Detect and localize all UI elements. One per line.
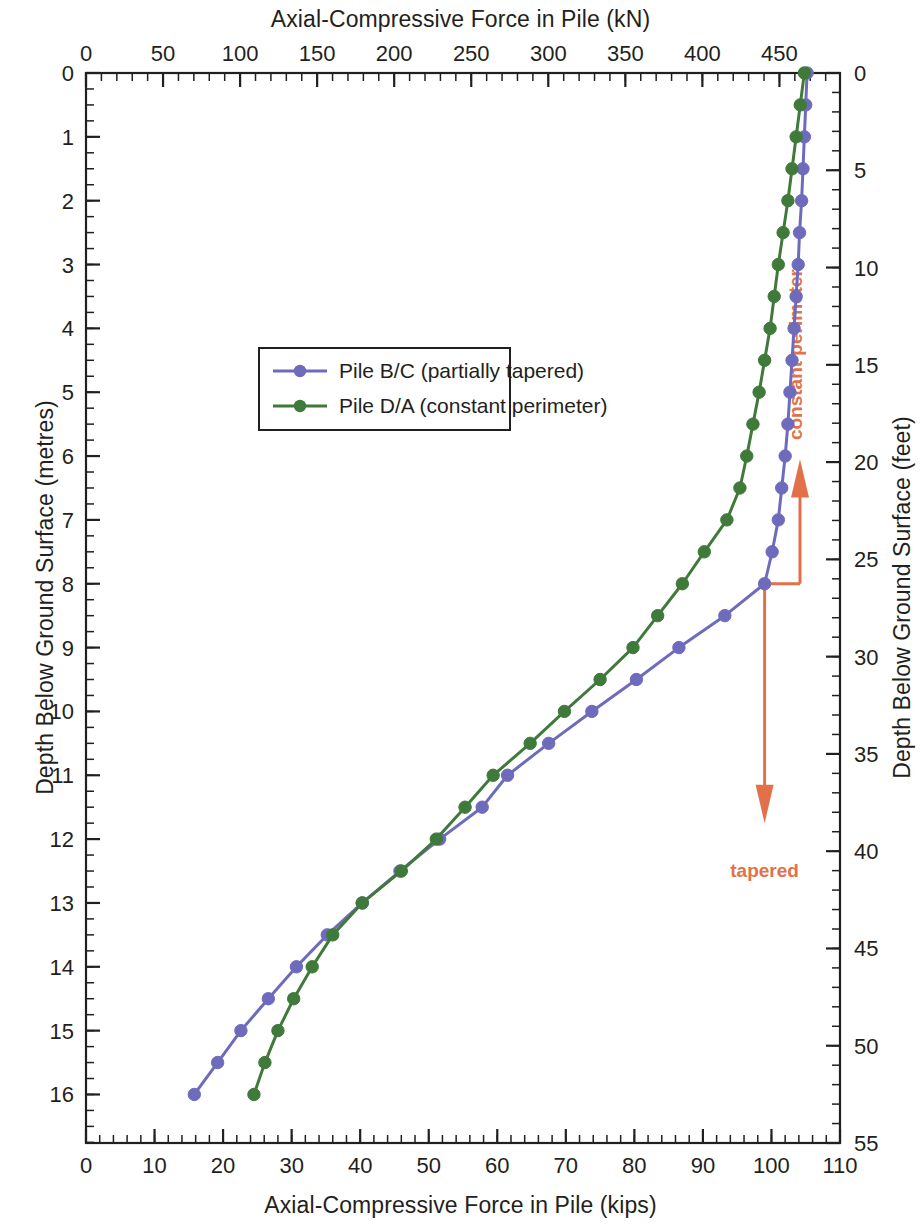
tick-label: 14 — [50, 955, 74, 980]
data-point — [766, 546, 778, 558]
tick-label: 0 — [854, 61, 866, 86]
series-line — [194, 73, 807, 1094]
data-point — [676, 578, 688, 590]
tick-label: 70 — [554, 1153, 578, 1178]
data-point — [795, 194, 807, 206]
data-point — [272, 1024, 284, 1036]
data-point — [734, 482, 746, 494]
annotation-label-tapered: tapered — [730, 860, 799, 881]
data-point — [794, 99, 806, 111]
data-point — [476, 801, 488, 813]
tick-label: 12 — [50, 827, 74, 852]
tick-label: 9 — [62, 636, 74, 661]
data-point — [753, 386, 765, 398]
data-point — [651, 609, 663, 621]
series-line — [254, 73, 804, 1094]
tick-label: 110 — [822, 1153, 857, 1178]
right-axis-ticks — [826, 73, 840, 1143]
legend-label: Pile B/C (partially tapered) — [339, 359, 584, 382]
data-point — [188, 1088, 200, 1100]
tick-label: 300 — [530, 41, 567, 66]
chart-figure: Axial-Compressive Force in Pile (kN) Axi… — [0, 0, 921, 1229]
tick-label: 60 — [485, 1153, 509, 1178]
tick-label: 0 — [80, 1153, 92, 1178]
data-point — [327, 929, 339, 941]
tick-label: 3 — [62, 253, 74, 278]
data-point — [290, 961, 302, 973]
tick-label: 55 — [854, 1131, 878, 1156]
data-point — [772, 514, 784, 526]
data-point — [698, 546, 710, 558]
tick-label: 20 — [854, 450, 878, 475]
data-point — [764, 322, 776, 334]
data-point — [306, 961, 318, 973]
data-point — [782, 194, 794, 206]
data-point — [586, 705, 598, 717]
data-point — [287, 993, 299, 1005]
tick-label: 90 — [691, 1153, 715, 1178]
plot-frame — [86, 73, 840, 1143]
data-point — [793, 226, 805, 238]
top-axis-tick-labels: 050100150200250300350400450 — [80, 41, 798, 66]
tick-label: 250 — [453, 41, 490, 66]
tick-label: 16 — [50, 1082, 74, 1107]
bottom-axis-ticks — [86, 1129, 840, 1143]
data-point — [487, 769, 499, 781]
tick-label: 45 — [854, 936, 878, 961]
data-point — [782, 418, 794, 430]
tick-label: 40 — [854, 839, 878, 864]
tick-label: 13 — [50, 891, 74, 916]
data-point — [777, 226, 789, 238]
tick-label: 50 — [854, 1034, 878, 1059]
data-point — [776, 482, 788, 494]
tick-label: 5 — [62, 380, 74, 405]
data-point — [262, 993, 274, 1005]
series-pile-da — [248, 67, 811, 1101]
data-point — [459, 801, 471, 813]
data-point — [235, 1024, 247, 1036]
tick-label: 1 — [62, 125, 74, 150]
data-point — [758, 354, 770, 366]
data-point — [788, 322, 800, 334]
data-point — [501, 769, 513, 781]
tick-label: 200 — [376, 41, 413, 66]
legend-swatch-marker — [294, 365, 306, 377]
data-point — [792, 258, 804, 270]
data-point — [558, 705, 570, 717]
tick-label: 10 — [142, 1153, 166, 1178]
data-point — [719, 609, 731, 621]
data-point — [790, 290, 802, 302]
data-point — [356, 897, 368, 909]
data-point — [779, 450, 791, 462]
plot-canvas: 050100150200250300350400450 010203040506… — [0, 0, 921, 1229]
data-point — [630, 673, 642, 685]
tick-label: 2 — [62, 189, 74, 214]
tick-label: 4 — [62, 316, 74, 341]
tick-label: 10 — [854, 256, 878, 281]
series-pile-bc — [188, 67, 813, 1101]
axes-box — [86, 73, 840, 1143]
legend-swatch-marker — [294, 400, 306, 412]
tick-label: 35 — [854, 742, 878, 767]
left-axis-tick-labels: 012345678910111213141516 — [50, 61, 74, 1107]
data-point — [786, 354, 798, 366]
tick-label: 50 — [416, 1153, 440, 1178]
data-point — [798, 67, 810, 79]
data-point — [395, 865, 407, 877]
legend: Pile B/C (partially tapered)Pile D/A (co… — [259, 348, 607, 430]
data-point — [627, 641, 639, 653]
left-axis-ticks — [86, 73, 100, 1142]
tick-label: 15 — [50, 1019, 74, 1044]
data-point — [594, 673, 606, 685]
data-point — [673, 641, 685, 653]
data-point — [784, 386, 796, 398]
tick-label: 15 — [854, 353, 878, 378]
tick-label: 6 — [62, 444, 74, 469]
arrow-up-icon — [791, 459, 809, 497]
arrow-down-icon — [756, 785, 774, 823]
data-point — [430, 833, 442, 845]
data-point — [741, 450, 753, 462]
data-point — [524, 737, 536, 749]
tick-label: 450 — [761, 41, 798, 66]
tick-label: 0 — [62, 61, 74, 86]
